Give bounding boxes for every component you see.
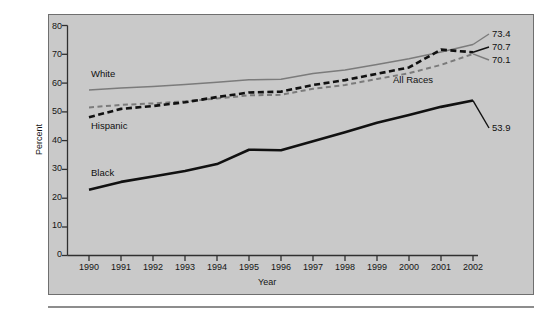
series-line-black: [89, 101, 473, 190]
plot-svg: [0, 0, 548, 315]
figure-container: 80 70 60 50 40 30 20 10 0 Percent 1990 1…: [0, 0, 548, 315]
series-line-all-races: [89, 54, 473, 107]
x-axis-ticks: [89, 256, 473, 262]
end-label-leader-lines: [473, 34, 489, 128]
series-line-white: [89, 44, 473, 89]
series-line-hispanic: [89, 50, 473, 118]
y-axis-ticks: [62, 26, 68, 256]
